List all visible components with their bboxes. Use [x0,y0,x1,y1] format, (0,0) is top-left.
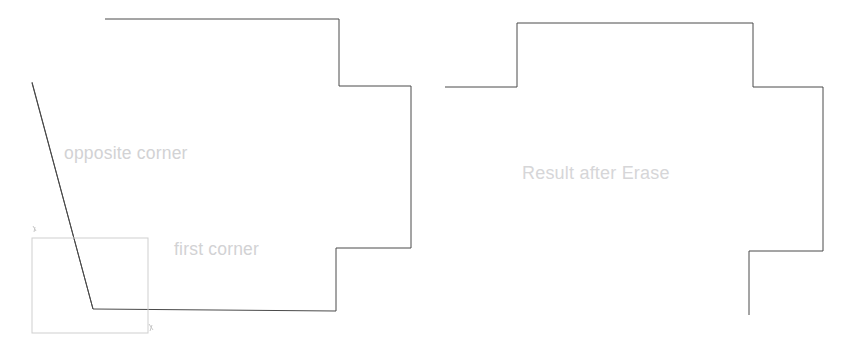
label-first-corner: first corner [174,239,259,260]
diagonal-cut-line [32,83,93,309]
left-figure-group [32,19,411,333]
erase-command-illustration: opposite corner first corner Result afte… [0,0,856,354]
drawing-canvas [0,0,856,354]
label-opposite-corner: opposite corner [64,143,188,164]
first-corner-marker-icon [33,226,36,232]
opposite-corner-marker-icon [149,324,153,331]
label-result-after-erase: Result after Erase [522,163,670,184]
shape-outline-before-erase [32,19,411,311]
selection-window-rectangle[interactable] [32,238,148,333]
